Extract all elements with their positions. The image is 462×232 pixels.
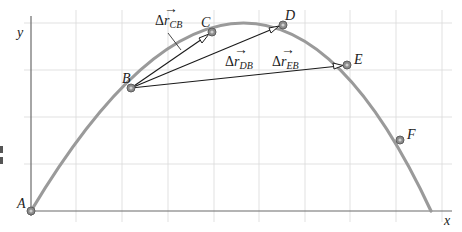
label-D: D — [284, 8, 295, 23]
vector-label-CB: ΔrCB → — [155, 1, 182, 30]
vector-label-DB: ΔrDB → — [225, 42, 253, 71]
vector-arrow-icon: → — [164, 1, 178, 16]
label-E: E — [353, 52, 363, 67]
x-axis-label: x — [443, 213, 451, 228]
label-A: A — [16, 196, 26, 211]
label-C: C — [201, 15, 211, 30]
point-F — [396, 136, 404, 144]
trajectory-diagram: y x A B C D E F ΔrCB → ΔrDB → ΔrEB → — [0, 0, 462, 232]
vector-arrow-icon: → — [234, 42, 248, 57]
arrowhead-icon — [199, 34, 209, 43]
vector-delta-r-CB — [131, 34, 209, 88]
vector-arrow-icon: → — [281, 42, 295, 57]
point-A — [27, 207, 35, 215]
point-E — [343, 61, 351, 69]
y-axis-label: y — [15, 25, 24, 40]
vector-label-EB: ΔrEB → — [272, 42, 299, 71]
label-F: F — [406, 127, 416, 142]
label-B: B — [122, 71, 131, 86]
